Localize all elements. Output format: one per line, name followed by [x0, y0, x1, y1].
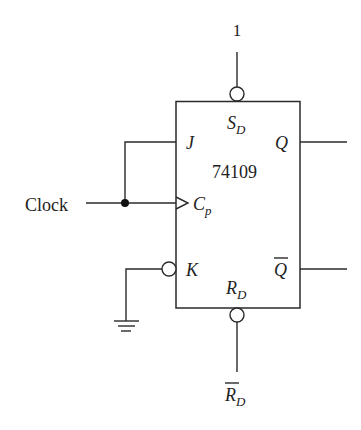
set-input-value: 1: [233, 21, 242, 40]
j-pin-label: J: [186, 133, 195, 153]
chip-label: 74109: [212, 162, 257, 182]
q-pin-label: Q: [275, 133, 288, 153]
reset-input-label: RD: [224, 385, 246, 409]
k-ground-wire: [126, 269, 162, 321]
junction-dot: [121, 199, 129, 207]
q-bar-pin-label: Q: [274, 260, 287, 280]
k-pin-label: K: [185, 260, 199, 280]
flip-flop-diagram: 1 SD J Q 74109 Clock Cp K Q RD RD: [0, 0, 361, 430]
k-inversion-bubble: [162, 262, 176, 276]
ground-icon: [114, 321, 139, 331]
reset-inversion-bubble: [230, 308, 244, 322]
set-inversion-bubble: [230, 87, 244, 101]
clock-label: Clock: [25, 195, 68, 215]
j-input-wire: [125, 142, 176, 203]
